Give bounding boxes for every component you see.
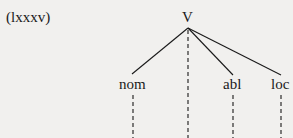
edge-v-abl [188, 28, 233, 75]
edge-v-loc [188, 28, 281, 75]
edge-v-nom [132, 28, 188, 74]
tree-edges [0, 0, 293, 138]
